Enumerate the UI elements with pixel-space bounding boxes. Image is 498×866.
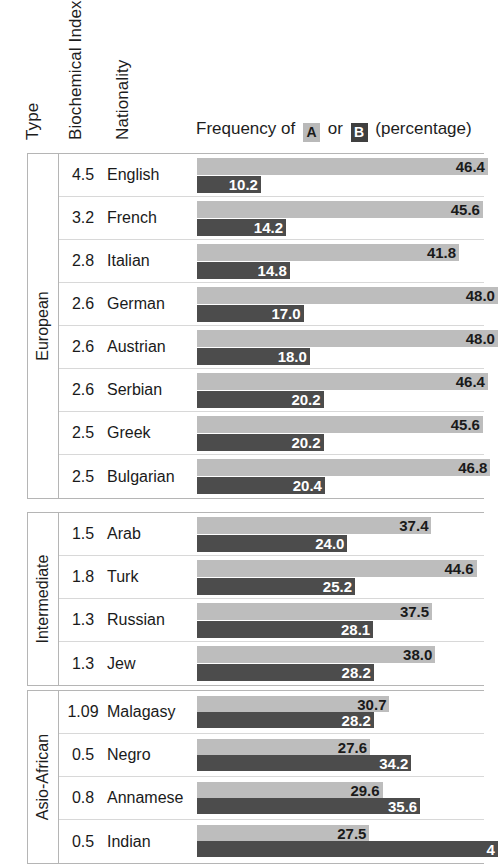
biochemical-index-value: 2.6 <box>59 381 107 399</box>
column-header-type: Type <box>23 103 43 140</box>
bar-value-b: 4 <box>487 841 498 858</box>
column-header-biochemical-index: Biochemical Index <box>66 0 86 140</box>
bar-value-a: 37.5 <box>400 603 432 620</box>
table-row[interactable]: 1.3Russian37.528.1 <box>59 599 484 642</box>
biochemical-index-value: 2.6 <box>59 338 107 356</box>
table-row[interactable]: 0.5Indian27.54 <box>59 820 484 863</box>
bar-value-a: 45.6 <box>451 416 483 433</box>
type-label: European <box>34 291 52 360</box>
table-row[interactable]: 2.6German48.017.0 <box>59 283 484 326</box>
bar-series-b: 14.2 <box>197 219 286 236</box>
bar-value-b: 14.2 <box>254 219 286 236</box>
type-label: Asio-African <box>34 734 52 820</box>
table-row[interactable]: 2.6Serbian46.420.2 <box>59 369 484 412</box>
bar-value-a: 37.4 <box>399 517 431 534</box>
nationality-value: Austrian <box>107 338 197 356</box>
nationality-value: Jew <box>107 655 197 673</box>
bar-pair: 41.814.8 <box>197 240 485 283</box>
bar-series-a: 44.6 <box>197 560 477 577</box>
bar-series-a: 46.4 <box>197 158 488 175</box>
row-group: 1.5Arab37.424.01.8Turk44.625.21.3Russian… <box>59 513 484 685</box>
biochemical-index-value: 0.8 <box>59 789 107 807</box>
bar-series-a: 45.6 <box>197 201 483 218</box>
bar-series-b: 28.2 <box>197 712 374 728</box>
table-row[interactable]: 2.8Italian41.814.8 <box>59 240 484 283</box>
bar-series-b: 28.1 <box>197 621 373 638</box>
biochemical-index-value: 4.5 <box>59 166 107 184</box>
bar-series-a: 45.6 <box>197 416 483 433</box>
table-row[interactable]: 2.5Greek45.620.2 <box>59 412 484 455</box>
bar-pair: 38.028.2 <box>197 642 485 685</box>
legend-badge-a: A <box>303 123 320 142</box>
row-group: 4.5English46.410.23.2French45.614.22.8It… <box>59 154 484 498</box>
bar-value-b: 14.8 <box>258 262 290 279</box>
bar-value-b: 28.2 <box>342 712 374 729</box>
table-row[interactable]: 4.5English46.410.2 <box>59 154 484 197</box>
nationality-value: Bulgarian <box>107 468 197 486</box>
bar-value-a: 44.6 <box>444 560 476 577</box>
bar-pair: 46.410.2 <box>197 154 485 197</box>
legend-middle: or <box>328 119 343 138</box>
bar-value-b: 18.0 <box>278 348 310 365</box>
bar-pair: 46.820.4 <box>197 455 485 498</box>
nationality-value: French <box>107 209 197 227</box>
table-row[interactable]: 1.5Arab37.424.0 <box>59 513 484 556</box>
table-row[interactable]: 1.3Jew38.028.2 <box>59 642 484 685</box>
biochemical-index-value: 2.5 <box>59 468 107 486</box>
bar-series-a: 38.0 <box>197 646 435 663</box>
nationality-value: Annamese <box>107 789 197 807</box>
bar-pair: 27.54 <box>197 820 485 863</box>
bar-value-b: 28.2 <box>342 664 374 681</box>
table-row[interactable]: 2.5Bulgarian46.820.4 <box>59 455 484 498</box>
chart-header: Type Biochemical Index Nationality Frequ… <box>0 0 484 150</box>
bar-series-b: 10.2 <box>197 176 261 193</box>
biochemical-index-value: 1.8 <box>59 568 107 586</box>
biochemical-index-value: 1.09 <box>59 703 107 721</box>
nationality-value: Arab <box>107 525 197 543</box>
bar-value-b: 25.2 <box>323 578 355 595</box>
bar-series-a: 27.5 <box>197 825 369 841</box>
bar-value-b: 24.0 <box>315 535 347 552</box>
bar-series-a: 41.8 <box>197 244 459 261</box>
bar-series-a: 27.6 <box>197 739 370 755</box>
table-row[interactable]: 3.2French45.614.2 <box>59 197 484 240</box>
table-row[interactable]: 2.6Austrian48.018.0 <box>59 326 484 369</box>
bar-series-a: 46.4 <box>197 373 488 390</box>
table-row[interactable]: 0.5Negro27.634.2 <box>59 734 484 777</box>
bar-pair: 27.634.2 <box>197 734 485 777</box>
biochemical-index-value: 1.5 <box>59 525 107 543</box>
legend-suffix: (percentage) <box>375 119 471 138</box>
bar-value-b: 20.2 <box>291 434 323 451</box>
table-row[interactable]: 1.8Turk44.625.2 <box>59 556 484 599</box>
bar-value-b: 10.2 <box>229 176 261 193</box>
bar-series-b: 25.2 <box>197 578 355 595</box>
bar-value-a: 29.6 <box>350 782 382 799</box>
biochemical-index-value: 3.2 <box>59 209 107 227</box>
bar-value-b: 17.0 <box>271 305 303 322</box>
bar-series-b: 14.8 <box>197 262 290 279</box>
bar-value-a: 48.0 <box>466 287 498 304</box>
biochemical-index-value: 2.8 <box>59 252 107 270</box>
bar-value-b: 20.4 <box>293 477 325 494</box>
bar-pair: 45.620.2 <box>197 412 485 455</box>
bar-pair: 29.635.6 <box>197 777 485 820</box>
nationality-value: Turk <box>107 568 197 586</box>
bar-pair: 37.424.0 <box>197 513 485 556</box>
bar-value-b: 20.2 <box>291 391 323 408</box>
legend: Frequency of A or B (percentage) <box>196 119 472 142</box>
column-header-nationality: Nationality <box>113 60 133 140</box>
bar-value-a: 48.0 <box>466 330 498 347</box>
table-row[interactable]: 1.09Malagasy30.728.2 <box>59 691 484 734</box>
type-cell: Asio-African <box>28 691 59 863</box>
bar-series-a: 48.0 <box>197 287 498 304</box>
bar-series-b: 28.2 <box>197 664 374 681</box>
bar-series-b: 35.6 <box>197 798 420 814</box>
bar-pair: 44.625.2 <box>197 556 485 599</box>
bar-value-a: 27.5 <box>337 825 369 842</box>
nationality-value: Italian <box>107 252 197 270</box>
bar-pair: 37.528.1 <box>197 599 485 642</box>
bar-series-b: 4 <box>197 841 498 857</box>
bar-pair: 48.018.0 <box>197 326 485 369</box>
table-row[interactable]: 0.8Annamese29.635.6 <box>59 777 484 820</box>
bar-series-b: 20.2 <box>197 391 324 408</box>
